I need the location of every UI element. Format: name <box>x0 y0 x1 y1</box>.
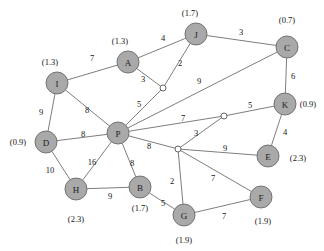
edge-weight-J-j1: 2 <box>178 58 182 68</box>
node-label-G: G <box>181 211 188 221</box>
node-label-C: C <box>284 43 290 53</box>
edge-weight-B-G: 5 <box>161 198 165 208</box>
graph-node-P: P <box>107 122 129 144</box>
graph-edge-I-A <box>68 65 118 80</box>
edge-weight-I-P: 8 <box>85 105 89 115</box>
node-annotation-G: (1.9) <box>176 235 192 245</box>
graph-edge-j3-G <box>178 152 183 204</box>
graph-junction-j3 <box>175 146 181 152</box>
graph-edge-j3-F <box>181 151 252 192</box>
edge-weight-A-J: 4 <box>161 33 166 43</box>
nodes-layer: AJCIKPDEHBFG <box>35 23 298 226</box>
edge-weight-G-F: 7 <box>222 211 226 221</box>
node-annotation-B: (1.7) <box>132 203 148 213</box>
edge-weight-I-D: 9 <box>39 107 43 117</box>
edge-weight-H-B: 9 <box>108 191 112 201</box>
edge-weight-P-H: 16 <box>88 157 97 167</box>
graph-node-F: F <box>250 186 272 208</box>
edge-weight-A-j1: 3 <box>141 74 145 84</box>
node-annotation-E: (2.3) <box>290 153 306 163</box>
node-label-A: A <box>125 58 132 68</box>
node-label-E: E <box>265 152 271 162</box>
edge-weight-K-E: 4 <box>283 127 288 137</box>
node-label-H: H <box>73 185 80 195</box>
graph-node-B: B <box>129 176 151 198</box>
graph-edge-C-K <box>285 58 286 93</box>
edge-weight-j3-j2: 3 <box>194 128 198 138</box>
node-annotation-labels-layer: (1.3)(1.7)(0.7)(1.3)(0.9)(0.9)(2.3)(2.3)… <box>10 8 316 245</box>
edge-weight-J-C: 3 <box>239 27 243 37</box>
graph-edge-P-C <box>128 52 277 128</box>
graph-node-E: E <box>257 145 279 167</box>
node-annotation-K: (0.9) <box>300 99 316 109</box>
graph-node-I: I <box>46 72 68 94</box>
graph-diagram-canvas: AJCIKPDEHBFG 743236988597583491016895277… <box>0 0 324 251</box>
edge-weight-P-j1: 5 <box>137 99 141 109</box>
graph-junction-j2 <box>221 113 227 119</box>
graph-edge-K-E <box>271 114 281 145</box>
graph-node-D: D <box>35 131 57 153</box>
edge-weight-P-C: 9 <box>197 76 201 86</box>
graph-svg: AJCIKPDEHBFG 743236988597583491016895277… <box>0 0 324 251</box>
node-label-F: F <box>258 193 263 203</box>
graph-node-G: G <box>173 204 195 226</box>
edge-weight-j3-F: 7 <box>211 173 215 183</box>
node-label-J: J <box>194 30 198 40</box>
edge-weight-P-B: 8 <box>130 158 134 168</box>
edge-weight-P-j2: 7 <box>181 113 185 123</box>
edge-weight-j3-E: 9 <box>223 143 227 153</box>
graph-edge-J-C <box>207 36 276 46</box>
node-annotation-A: (1.3) <box>112 36 128 46</box>
edge-weight-I-A: 7 <box>90 53 94 63</box>
node-annotation-J: (1.7) <box>182 8 198 18</box>
node-annotation-H: (2.3) <box>68 214 84 224</box>
graph-edge-P-j2 <box>129 116 221 131</box>
edge-weight-D-H: 10 <box>46 165 55 175</box>
graph-node-J: J <box>185 23 207 45</box>
edge-weight-D-P: 8 <box>81 129 85 139</box>
node-label-D: D <box>43 138 50 148</box>
node-label-P: P <box>115 129 120 139</box>
node-annotation-D: (0.9) <box>10 137 26 147</box>
edge-weight-j3-G: 2 <box>170 176 174 186</box>
node-annotation-F: (1.9) <box>255 216 271 226</box>
graph-node-A: A <box>117 51 139 73</box>
node-label-I: I <box>56 79 59 89</box>
graph-node-H: H <box>65 178 87 200</box>
node-label-B: B <box>137 183 143 193</box>
edge-weight-C-K: 6 <box>291 71 295 81</box>
graph-edge-I-D <box>48 94 55 131</box>
graph-node-K: K <box>274 93 296 115</box>
graph-edge-D-H <box>52 151 70 179</box>
edge-weight-P-j3: 8 <box>147 141 151 151</box>
graph-junction-j1 <box>160 85 166 91</box>
graph-edge-H-B <box>87 187 129 188</box>
node-label-K: K <box>282 100 289 110</box>
edge-weight-j2-K: 5 <box>248 100 252 110</box>
node-annotation-C: (0.7) <box>279 15 295 25</box>
graph-node-C: C <box>276 36 298 58</box>
node-annotation-I: (1.3) <box>42 57 58 67</box>
graph-edge-j3-E <box>181 149 257 155</box>
graph-edge-P-j3 <box>129 136 175 148</box>
